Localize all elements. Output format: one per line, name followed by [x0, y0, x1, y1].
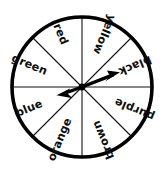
spinner-arrow-pivot[interactable] [79, 84, 86, 91]
spinner-figure: yellow black purple brown orange blue gr… [0, 0, 166, 172]
spinner-canvas: yellow black purple brown orange blue gr… [0, 0, 166, 172]
